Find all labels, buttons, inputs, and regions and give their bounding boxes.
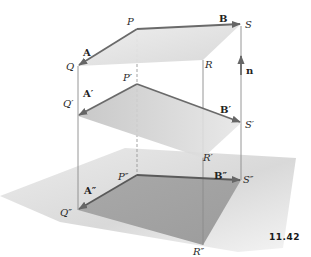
label-P-prime: P′ (122, 72, 133, 83)
label-P: P (126, 16, 134, 27)
top-parallelogram (78, 24, 241, 66)
label-Q: Q (66, 61, 74, 72)
label-R: R (204, 59, 213, 70)
label-vector-A: A (82, 47, 91, 58)
label-vector-A-double-prime: A″ (83, 185, 97, 196)
label-vector-A-prime: A′ (82, 88, 94, 99)
label-S-prime: S′ (245, 119, 255, 130)
middle-parallelogram (78, 84, 241, 158)
parallelogram-projection-diagram: P S Q R P′ Q′ S′ R′ P″ Q″ S″ R″ A B n A′… (0, 0, 311, 257)
label-S-double-prime: S″ (243, 174, 254, 185)
label-vector-B: B (219, 13, 227, 24)
label-vector-B-prime: B′ (220, 104, 231, 115)
figure-number: 11.42 (269, 232, 300, 242)
label-Q-double-prime: Q″ (60, 207, 72, 218)
label-S: S (245, 19, 252, 30)
label-vector-B-double-prime: B″ (214, 170, 227, 181)
label-Q-prime: Q′ (63, 98, 74, 109)
label-R-prime: R′ (202, 152, 214, 163)
label-P-double-prime: P″ (117, 171, 129, 182)
label-R-double-prime: R″ (192, 246, 205, 257)
label-vector-n: n (246, 65, 254, 76)
